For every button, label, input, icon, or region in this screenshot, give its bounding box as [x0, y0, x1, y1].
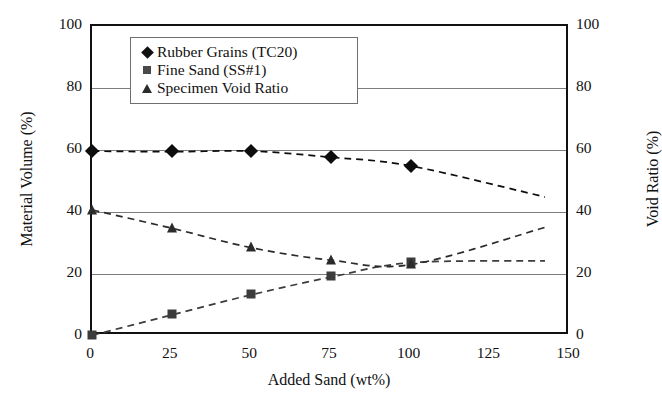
- data-point-square-50: [247, 290, 256, 299]
- legend-entry-2: Specimen Void Ratio: [139, 79, 349, 97]
- x-tick-100: 100: [379, 345, 439, 361]
- y-right-tick-100: 100: [576, 16, 599, 32]
- legend-label-1: Fine Sand (SS#1): [155, 62, 266, 78]
- y-right-tick-60: 60: [576, 140, 592, 156]
- data-point-diamond-75: [324, 150, 338, 164]
- y-axis-left-ticks: 020406080100: [28, 0, 82, 399]
- y-right-tick-20: 20: [576, 264, 592, 280]
- y-left-tick-100: 100: [59, 16, 82, 32]
- diamond-marker: [139, 48, 155, 57]
- y-right-tick-40: 40: [576, 202, 592, 218]
- triangle-marker: [139, 84, 155, 93]
- legend-entry-0: Rubber Grains (TC20): [139, 43, 349, 61]
- data-point-diamond-0: [85, 144, 99, 158]
- y-right-tick-80: 80: [576, 78, 592, 94]
- data-point-triangle-100: [406, 259, 416, 269]
- data-point-diamond-25: [165, 144, 179, 158]
- data-point-triangle-50: [246, 242, 256, 252]
- x-tick-75: 75: [299, 345, 359, 361]
- data-point-diamond-100: [404, 158, 418, 172]
- data-point-diamond-50: [244, 144, 258, 158]
- data-point-triangle-25: [167, 222, 177, 232]
- diamond-marker-glyph: [141, 46, 154, 59]
- x-axis-title: Added Sand (wt%): [0, 371, 658, 389]
- x-tick-125: 125: [458, 345, 518, 361]
- data-point-triangle-75: [326, 254, 336, 264]
- x-tick-25: 25: [140, 345, 200, 361]
- y-right-tick-0: 0: [576, 326, 584, 342]
- x-tick-50: 50: [219, 345, 279, 361]
- square-marker-glyph: [143, 66, 151, 74]
- y-left-tick-80: 80: [67, 78, 83, 94]
- legend-entry-1: Fine Sand (SS#1): [139, 61, 349, 79]
- y-left-tick-40: 40: [67, 202, 83, 218]
- triangle-marker-glyph: [142, 84, 152, 93]
- legend-label-2: Specimen Void Ratio: [155, 80, 288, 96]
- data-point-triangle-0: [87, 204, 97, 214]
- legend-label-0: Rubber Grains (TC20): [155, 44, 297, 60]
- y-left-tick-60: 60: [67, 140, 83, 156]
- y-left-tick-20: 20: [67, 264, 83, 280]
- data-point-square-75: [327, 272, 336, 281]
- y-axis-right-ticks: 020406080100: [576, 0, 636, 399]
- square-marker: [139, 66, 155, 74]
- x-tick-150: 150: [538, 345, 598, 361]
- legend: Rubber Grains (TC20)Fine Sand (SS#1)Spec…: [130, 37, 358, 104]
- y-axis-right-title: Void Ratio (%): [644, 64, 662, 294]
- x-axis-ticks: 0255075100125150: [0, 345, 658, 369]
- data-point-square-0: [88, 330, 97, 339]
- data-point-square-25: [167, 310, 176, 319]
- x-tick-0: 0: [60, 345, 120, 361]
- y-left-tick-0: 0: [74, 326, 82, 342]
